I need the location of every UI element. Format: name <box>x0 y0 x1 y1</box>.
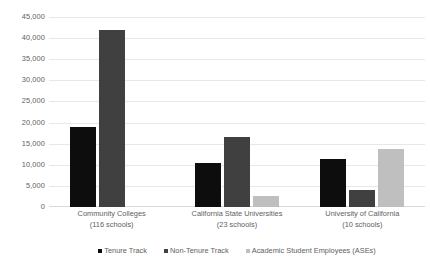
bar-group-california-state-universities <box>174 17 299 207</box>
bar-group-university-of-california <box>300 17 425 207</box>
y-axis-tick: 30,000 <box>0 76 45 84</box>
bar-groups <box>49 17 425 207</box>
x-axis-category-sublabel: (10 schools) <box>300 220 425 231</box>
y-axis-tick: 10,000 <box>0 161 45 169</box>
legend-item-tenure-track: Tenure Track <box>98 246 147 255</box>
bar-group-community-colleges <box>49 17 174 207</box>
legend-label: Non-Tenure Track <box>170 246 229 255</box>
x-axis: Community Colleges (116 schools) Califor… <box>49 209 425 239</box>
x-axis-category-sublabel: (23 schools) <box>174 220 299 231</box>
y-axis-tick: 45,000 <box>0 13 45 21</box>
legend-swatch-icon <box>164 249 168 253</box>
x-axis-category: California State Universities (23 school… <box>174 209 299 239</box>
y-axis-tick: 25,000 <box>0 97 45 105</box>
legend-label: Academic Student Employees (ASEs) <box>252 246 376 255</box>
bar-non-tenure-track <box>224 137 250 207</box>
x-axis-category-label: California State Universities <box>192 209 283 218</box>
bar-academic-student-employees <box>378 149 404 207</box>
legend-swatch-icon <box>246 249 250 253</box>
bar-chart: 45,000 40,000 35,000 30,000 25,000 20,00… <box>0 0 430 263</box>
bar-tenure-track <box>195 163 221 207</box>
legend-item-non-tenure-track: Non-Tenure Track <box>164 246 229 255</box>
y-axis-tick: 5,000 <box>0 182 45 190</box>
bar-tenure-track <box>320 159 346 207</box>
legend-label: Tenure Track <box>104 246 147 255</box>
bar-tenure-track <box>70 127 96 207</box>
x-axis-category-sublabel: (116 schools) <box>49 220 174 231</box>
bar-non-tenure-track <box>349 190 375 207</box>
bar-academic-student-employees <box>253 196 279 207</box>
legend-swatch-icon <box>98 249 102 253</box>
y-axis-tick: 0 <box>0 203 45 211</box>
y-axis-tick: 15,000 <box>0 140 45 148</box>
x-axis-category: University of California (10 schools) <box>300 209 425 239</box>
y-axis-tick: 20,000 <box>0 119 45 127</box>
legend-item-academic-student-employees: Academic Student Employees (ASEs) <box>246 246 376 255</box>
y-axis: 45,000 40,000 35,000 30,000 25,000 20,00… <box>0 0 45 224</box>
bar-non-tenure-track <box>99 30 125 207</box>
y-axis-tick: 40,000 <box>0 34 45 42</box>
chart-legend: Tenure Track Non-Tenure Track Academic S… <box>49 243 425 257</box>
x-axis-category: Community Colleges (116 schools) <box>49 209 174 239</box>
x-axis-category-label: Community Colleges <box>78 209 146 218</box>
x-axis-category-label: University of California <box>325 209 399 218</box>
y-axis-tick: 35,000 <box>0 55 45 63</box>
